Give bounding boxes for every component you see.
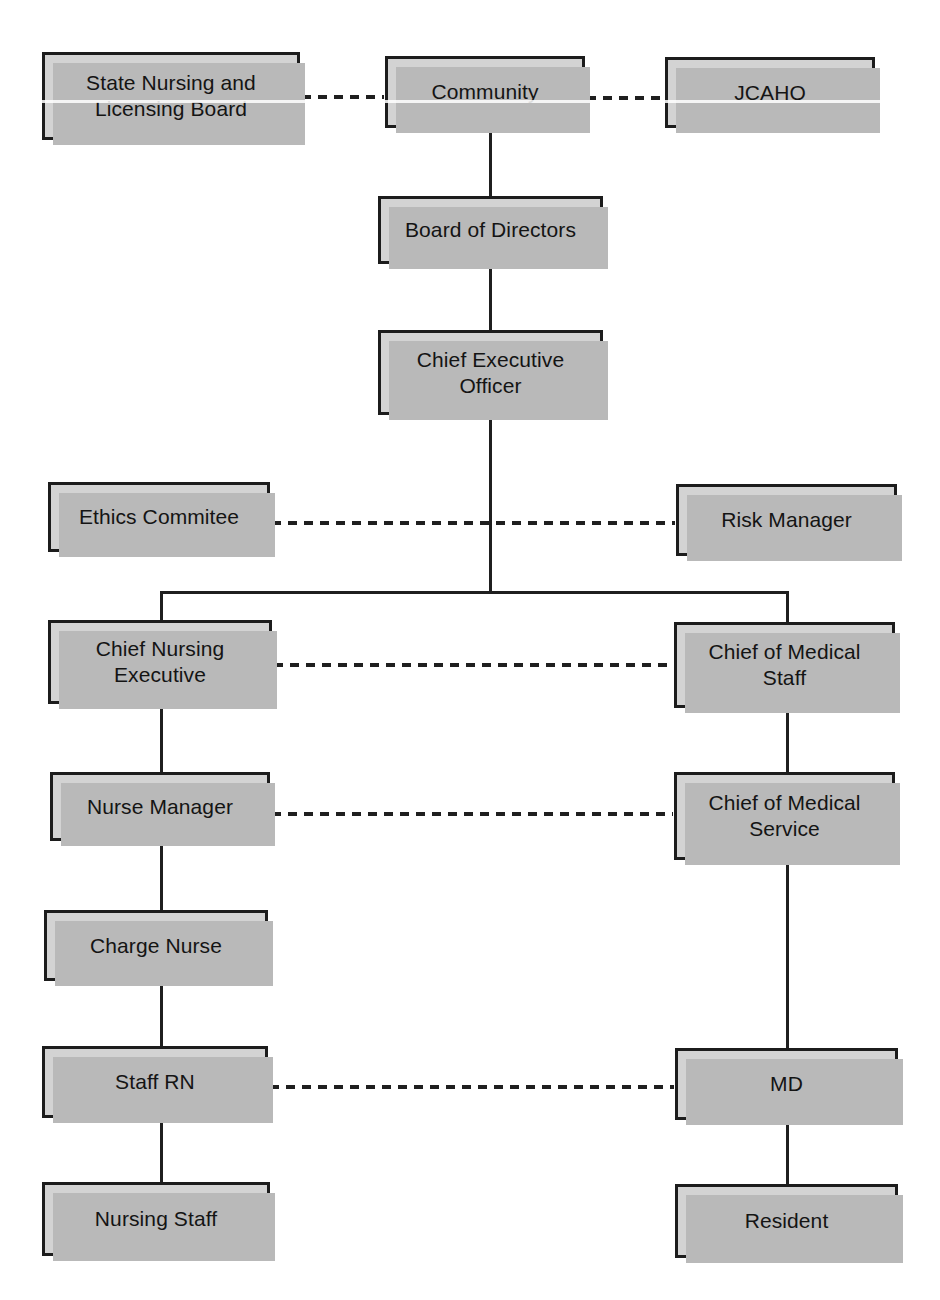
dashed-connector-ethics-to-risk-manager — [272, 521, 675, 525]
connector-cne-to-nurse-manager — [160, 704, 163, 773]
node-label-chief-of-medical-staff: Chief of Medical Staff — [702, 639, 866, 690]
node-label-state-nursing-board: State Nursing and Licensing Board — [80, 70, 262, 121]
dashed-connector-cne-to-chief-medical-staff — [274, 663, 673, 667]
connector-board-to-ceo — [489, 264, 492, 330]
node-chief-of-medical-service[interactable]: Chief of Medical Service — [674, 772, 895, 860]
node-label-board-of-directors: Board of Directors — [399, 217, 582, 243]
node-chief-nursing-executive[interactable]: Chief Nursing Executive — [48, 620, 272, 704]
node-label-nursing-staff: Nursing Staff — [89, 1206, 223, 1232]
dashed-connector-staff-rn-to-md — [270, 1085, 674, 1089]
node-label-nurse-manager: Nurse Manager — [81, 794, 239, 820]
node-jcaho[interactable]: JCAHO — [665, 57, 875, 128]
connector-cms-service-to-md — [786, 860, 789, 1049]
node-label-community: Community — [425, 79, 544, 105]
dashed-connector-community-to-jcaho — [587, 96, 664, 100]
connector-split-to-chief-nursing — [160, 591, 163, 621]
node-nursing-staff[interactable]: Nursing Staff — [42, 1182, 270, 1256]
node-nurse-manager[interactable]: Nurse Manager — [50, 772, 270, 841]
node-chief-of-medical-staff[interactable]: Chief of Medical Staff — [674, 622, 895, 708]
connector-nurse-manager-to-charge — [160, 841, 163, 911]
node-chief-executive-officer[interactable]: Chief Executive Officer — [378, 330, 603, 415]
connector-charge-to-staff-rn — [160, 981, 163, 1047]
node-label-md: MD — [764, 1071, 809, 1097]
node-label-chief-nursing-executive: Chief Nursing Executive — [90, 636, 231, 687]
node-community[interactable]: Community — [385, 56, 585, 128]
dashed-connector-nurse-mgr-to-cms-service — [272, 812, 673, 816]
dashed-connector-state-board-to-community — [302, 95, 384, 99]
node-md[interactable]: MD — [675, 1048, 898, 1120]
node-label-ethics-committee: Ethics Commitee — [73, 504, 245, 530]
connector-staff-rn-to-nursing-staff — [160, 1118, 163, 1183]
node-label-resident: Resident — [739, 1208, 835, 1234]
node-charge-nurse[interactable]: Charge Nurse — [44, 910, 268, 981]
connector-split-to-chief-medical-staff — [786, 591, 789, 623]
node-resident[interactable]: Resident — [675, 1184, 898, 1258]
node-board-of-directors[interactable]: Board of Directors — [378, 196, 603, 264]
node-label-chief-executive-officer: Chief Executive Officer — [411, 347, 570, 398]
node-state-nursing-board[interactable]: State Nursing and Licensing Board — [42, 52, 300, 140]
node-risk-manager[interactable]: Risk Manager — [676, 484, 897, 556]
connector-split-horizontal-bar — [160, 591, 788, 594]
org-chart-canvas: State Nursing and Licensing BoardCommuni… — [0, 0, 940, 1300]
connector-cms-staff-to-cms-service — [786, 708, 789, 773]
node-label-staff-rn: Staff RN — [109, 1069, 201, 1095]
node-staff-rn[interactable]: Staff RN — [42, 1046, 268, 1118]
node-label-risk-manager: Risk Manager — [715, 507, 858, 533]
connector-md-to-resident — [786, 1120, 789, 1185]
node-label-charge-nurse: Charge Nurse — [84, 933, 228, 959]
node-label-jcaho: JCAHO — [728, 80, 812, 106]
node-ethics-committee[interactable]: Ethics Commitee — [48, 482, 270, 552]
connector-community-to-board — [489, 128, 492, 196]
connector-ceo-to-split — [489, 415, 492, 593]
node-label-chief-of-medical-service: Chief of Medical Service — [702, 790, 866, 841]
